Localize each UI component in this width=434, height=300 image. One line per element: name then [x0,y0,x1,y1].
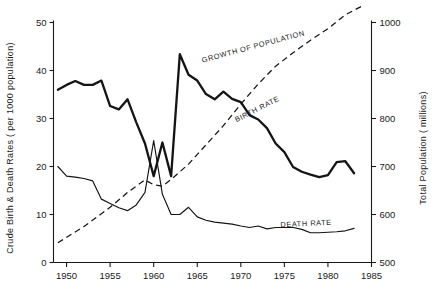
right-axis-tick-label: 600 [380,209,396,220]
left-axis-tick-label: 30 [36,113,47,124]
x-axis-tick-label: 1985 [361,270,382,281]
series-group [58,6,363,243]
series-line-birth-rate [58,54,354,177]
right-axis-tick-label: 900 [380,65,396,76]
left-axis-tick-label: 50 [36,17,47,28]
left-axis-tick-label: 40 [36,65,47,76]
population-chart: 01020304050 5006007008009001000 19501955… [0,0,434,300]
right-axis: 5006007008009001000 [372,17,401,268]
left-axis: 01020304050 [36,17,54,268]
right-axis-tick-label: 800 [380,113,396,124]
x-axis-tick-label: 1970 [230,270,251,281]
annotation-growth-of-population: GROWTH OF POPULATION [201,28,306,64]
right-axis-tick-label: 700 [380,161,396,172]
right-axis-tick-label: 1000 [380,17,401,28]
left-axis-tick-label: 0 [41,257,46,268]
left-axis-tick-label: 10 [36,209,47,220]
x-axis-tick-label: 1980 [317,270,338,281]
left-axis-title: Crude Birth & Death Rates ( per 1000 pop… [5,42,15,254]
right-axis-tick-label: 500 [380,257,396,268]
chart-canvas: 01020304050 5006007008009001000 19501955… [0,0,434,300]
x-axis-tick-label: 1950 [56,270,77,281]
x-axis-tick-label: 1955 [100,270,121,281]
left-axis-tick-label: 20 [36,161,47,172]
annotation-death-rate: DEATH RATE [280,218,332,230]
x-axis-tick-label: 1965 [187,270,208,281]
series-line-growth-of-population [58,6,363,243]
x-axis-tick-label: 1960 [143,270,164,281]
x-axis-tick-label: 1975 [274,270,295,281]
x-axis: 19501955196019651970197519801985 [54,263,383,281]
right-axis-title: Total Population ( millions) [418,91,428,204]
